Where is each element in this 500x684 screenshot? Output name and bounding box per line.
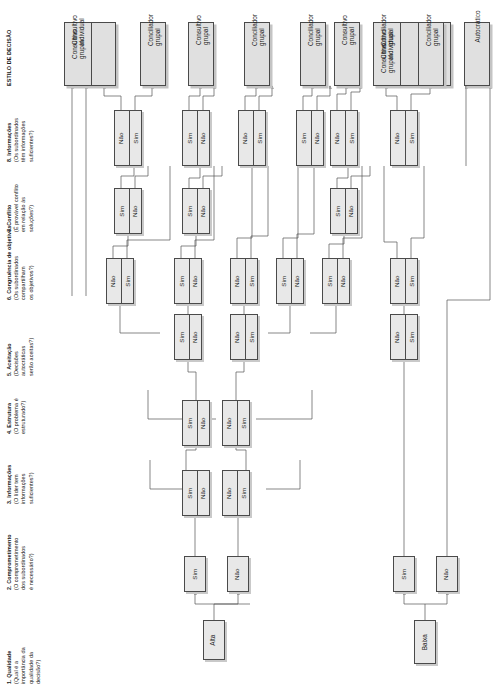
col6-q3: os objetivos?)	[28, 225, 35, 300]
decision-node-l7[interactable]: Sim Não	[182, 188, 210, 234]
decision-node-l4[interactable]: Sim Não	[182, 400, 210, 446]
root-node-baixa[interactable]: Baixa	[414, 620, 436, 664]
decision-node-l6[interactable]: Sim Não	[276, 258, 304, 304]
node-option-label: Sim	[133, 133, 140, 144]
decision-node-l6[interactable]: Não Sim	[106, 258, 134, 304]
decision-node-l4[interactable]: Não Sim	[222, 400, 250, 446]
col6-q1: (Os subordinados	[13, 225, 20, 300]
node-option-label: Sim	[249, 276, 256, 287]
node-option-label: Sim	[187, 418, 194, 429]
col2-q3: é necessário?)	[28, 534, 35, 590]
outcome-box[interactable]: Consultivo grupal	[188, 22, 214, 86]
col5-q2: autocráticas	[20, 338, 27, 376]
decision-node-l6[interactable]: Sim Não	[322, 258, 350, 304]
outcome-cell: Autocrático	[465, 23, 491, 30]
decision-node-l6[interactable]: Não Sim	[230, 258, 258, 304]
column-header-informacoes-lider: 3. Informações (O líder tem informações …	[6, 465, 35, 504]
node-option-label: Não	[235, 568, 242, 579]
col5-q1: (Decisões	[13, 338, 20, 376]
outcome-box[interactable]: Conciliador grupal	[418, 22, 444, 86]
root-label: Baixa	[422, 634, 429, 650]
decision-node-l8[interactable]: Sim Não	[296, 110, 324, 166]
decision-node-l7[interactable]: Sim Não	[114, 188, 142, 234]
node-option-label: Não	[193, 275, 200, 286]
node-option-label: Não	[227, 487, 234, 498]
col6-number: 6.	[6, 295, 12, 300]
col4-name: Estrutura	[6, 403, 12, 428]
col5-name: Aceitação	[6, 343, 12, 369]
node-option-label: Não	[201, 132, 208, 143]
node-option-label: Não	[235, 331, 242, 342]
column-header-informacoes-subordinados: 8. Informações (Os subordinados têm info…	[6, 118, 35, 162]
decision-node-l8[interactable]: Não Sim	[238, 110, 266, 166]
col6-name: Congruência de objetivos	[6, 225, 12, 293]
outcome-cell: Consultivo grupal	[374, 51, 400, 65]
outcome-cell: Conciliador grupal	[245, 23, 271, 37]
outcome-box[interactable]: Conciliador grupal	[140, 22, 166, 86]
decision-node-l5[interactable]: Sim Não	[174, 314, 202, 360]
outcome-label: Conciliador grupal	[147, 14, 161, 46]
node-option-label: Não	[201, 487, 208, 498]
col4-q2: estruturado?)	[20, 398, 27, 434]
col5-number: 5.	[6, 371, 12, 376]
column-header-estrutura: 4. Estrutura (O problema é estruturado?)	[6, 398, 28, 434]
node-option-label: Não	[201, 205, 208, 216]
node-option-label: Sim	[301, 133, 308, 144]
node-option-label: Não	[243, 132, 250, 143]
decision-node-l8[interactable]: Não Sim	[330, 110, 358, 166]
decision-node-l7[interactable]: Sim Não	[330, 188, 358, 234]
outcome-box[interactable]: Consultivo grupal	[334, 22, 360, 86]
decision-node-l5[interactable]: Não Sim	[390, 314, 418, 360]
node-option-label: Não	[335, 132, 342, 143]
col8-q1: (Os subordinados	[13, 118, 20, 162]
decision-node-l5[interactable]: Não Sim	[230, 314, 258, 360]
col7-number: 7.	[6, 227, 12, 232]
decision-node-l6[interactable]: Não Sim	[390, 258, 418, 304]
node-option-label: Não	[395, 275, 402, 286]
outcome-box[interactable]: Consultivo individual Consultivo grupal	[64, 22, 116, 86]
outcome-box[interactable]: Autocrático	[464, 22, 490, 86]
col2-name: Comprometimento	[6, 534, 12, 583]
col3-q1: (O líder tem	[13, 465, 20, 504]
node-option-label: Não	[111, 275, 118, 286]
col1-q4: decisão?)	[35, 647, 42, 684]
column-header-aceitacao: 5. Aceitação (Decisões autocráticas serã…	[6, 338, 35, 376]
decision-node-l8[interactable]: Não Sim	[390, 110, 418, 166]
col6-q2: compartilham	[20, 225, 27, 300]
column-header-congruencia: 6. Congruência de objetivos (Os subordin…	[6, 225, 35, 300]
node-option-label: Não	[444, 568, 451, 579]
node-option-label: Sim	[241, 418, 248, 429]
decision-node-l3[interactable]: Sim Não	[182, 470, 210, 516]
outcome-cell: Conciliador grupal	[301, 23, 327, 37]
col7-name: Conflito	[6, 205, 12, 226]
outcome-label: Conciliador grupal	[425, 14, 439, 46]
col2-q1: (O comprometimento	[13, 534, 20, 590]
col5-q3: serão aceitas?)	[28, 338, 35, 376]
decision-node-l8[interactable]: Não Sim	[114, 110, 142, 166]
decision-node-l2[interactable]: Não	[436, 556, 458, 592]
node-option-label: Sim	[119, 206, 126, 217]
outcome-box[interactable]: Conciliador grupal	[244, 22, 270, 86]
col7-q1: (É provável conflito	[13, 184, 20, 232]
node-option-label: Sim	[179, 332, 186, 343]
column-header-conflito: 7. Conflito (É provável conflito em rela…	[6, 184, 35, 232]
node-option-label: Não	[193, 331, 200, 342]
outcome-label: Consultivo grupal	[380, 43, 394, 73]
column-header-qualidade: 1. Qualidade (Qual é a importância da qu…	[6, 647, 42, 684]
decision-node-l2[interactable]: Não	[227, 556, 249, 592]
col4-q1: (O problema é	[13, 398, 20, 434]
decision-node-l8[interactable]: Sim Não	[182, 110, 210, 166]
outcome-box[interactable]: Conciliador grupal	[300, 22, 326, 86]
node-option-label: Sim	[241, 488, 248, 499]
node-option-label: Sim	[349, 133, 356, 144]
decision-node-l2[interactable]: Sim	[184, 556, 206, 592]
root-node-alta[interactable]: Alta	[203, 620, 225, 660]
decision-node-l2[interactable]: Sim	[393, 556, 415, 592]
col9-name: ESTILO DE DECISÃO	[6, 30, 12, 86]
col1-q1: (Qual é a	[13, 647, 20, 684]
decision-node-l3[interactable]: Não Sim	[222, 470, 250, 516]
node-option-label: Não	[315, 132, 322, 143]
decision-node-l6[interactable]: Sim Não	[174, 258, 202, 304]
node-option-label: Sim	[192, 569, 199, 580]
col8-name: Informações	[6, 123, 12, 156]
